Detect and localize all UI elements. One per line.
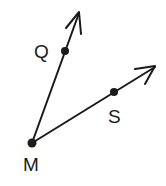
angle-diagram: Q S M [0, 0, 166, 186]
label-s: S [108, 106, 121, 127]
point-m [28, 139, 37, 148]
point-q [61, 47, 69, 55]
label-m: M [23, 154, 39, 175]
ray-mq [32, 13, 79, 143]
point-s [110, 88, 118, 96]
ray-ms [32, 67, 155, 143]
label-q: Q [34, 41, 49, 62]
